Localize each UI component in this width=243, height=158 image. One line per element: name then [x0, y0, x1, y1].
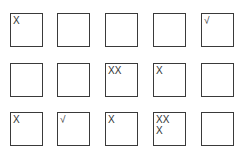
grid-cell-r1-c1[interactable]: X	[10, 13, 43, 47]
grid-cell-r1-c3[interactable]	[105, 13, 138, 47]
grid-cell-r1-c4[interactable]	[153, 13, 186, 47]
cell-mark: X	[156, 65, 163, 76]
grid-cell-r3-c1[interactable]: X	[10, 112, 43, 146]
check-mark-icon: √	[204, 15, 210, 26]
grid-cell-r1-c2[interactable]	[57, 13, 90, 47]
cell-mark: XX	[108, 65, 121, 76]
grid-cell-r3-c4[interactable]: XX X	[153, 112, 186, 146]
grid-cell-r2-c5[interactable]	[201, 63, 234, 97]
grid-cell-r3-c3[interactable]: X	[105, 112, 138, 146]
cell-mark: X	[13, 15, 20, 26]
grid-cell-r2-c2[interactable]	[57, 63, 90, 97]
grid-cell-r1-c5[interactable]: √	[201, 13, 234, 47]
grid-cell-r2-c1[interactable]	[10, 63, 43, 97]
cell-mark: X	[108, 114, 115, 125]
grid-cell-r2-c4[interactable]: X	[153, 63, 186, 97]
cell-mark: X	[13, 114, 20, 125]
grid-cell-r3-c5[interactable]	[201, 112, 234, 146]
check-mark-icon: √	[60, 114, 66, 125]
cell-mark: XX X	[156, 114, 169, 136]
grid-cell-r2-c3[interactable]: XX	[105, 63, 138, 97]
grid-cell-r3-c2[interactable]: √	[57, 112, 90, 146]
